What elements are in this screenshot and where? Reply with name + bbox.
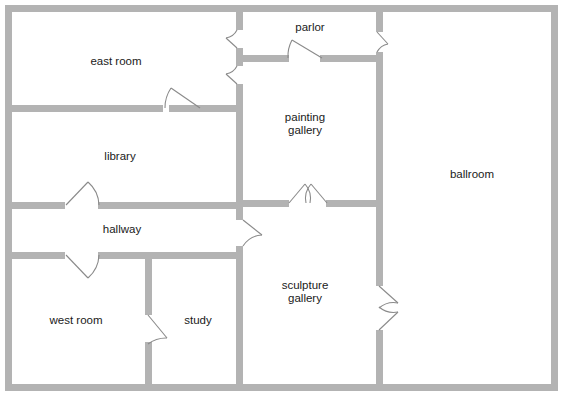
door-library-to-hallway	[66, 182, 99, 205]
wall-east-library-right	[169, 105, 243, 112]
interior-walls	[8, 12, 383, 391]
wall-hallway-west-left	[8, 252, 65, 259]
floor-plan: east room library hallway west room stud…	[0, 0, 570, 403]
door-hallway-to-sculpture-gallery	[243, 220, 262, 246]
wall-east-parlor-upper	[236, 12, 243, 30]
wall-west-study-upper	[145, 255, 152, 315]
room-label-painting-gallery-line1: painting	[285, 111, 325, 123]
wall-library-hallway-left	[8, 202, 65, 209]
wall-gallery-ballroom-lower	[376, 330, 383, 391]
door-parlor-to-painting-gallery	[288, 40, 322, 58]
exterior-wall-left	[5, 5, 12, 391]
wall-galleries-right	[326, 200, 383, 207]
door-east-room-to-painting-gallery	[226, 66, 237, 84]
wall-west-study-lower	[145, 342, 152, 391]
door-parlor-to-ballroom	[377, 32, 388, 52]
wall-parlor-gallery-left	[240, 55, 289, 62]
wall-gallery-ballroom-mid	[376, 52, 383, 286]
wall-parlor-gallery-right	[320, 55, 383, 62]
room-label-west-room: west room	[48, 314, 102, 326]
exterior-wall-right	[551, 5, 558, 391]
room-label-ballroom: ballroom	[450, 168, 494, 180]
wall-galleries-left	[240, 200, 289, 207]
wall-hallway-west-right	[98, 252, 243, 259]
wall-east-library-left	[8, 105, 163, 112]
doors	[66, 30, 398, 344]
room-label-hallway: hallway	[103, 223, 142, 235]
door-hallway-to-west-room	[66, 255, 99, 278]
wall-parlor-ballroom-upper	[376, 12, 383, 32]
room-label-sculpture-gallery-line2: gallery	[288, 292, 322, 304]
door-west-room-to-study	[148, 315, 167, 344]
exterior-wall-bottom	[5, 384, 558, 391]
room-label-study: study	[184, 314, 212, 326]
room-label-painting-gallery-line2: gallery	[288, 124, 322, 136]
door-east-room-to-parlor	[226, 30, 237, 48]
room-label-parlor: parlor	[295, 21, 325, 33]
door-painting-gallery-to-sculpture-gallery	[289, 184, 327, 203]
room-label-east-room: east room	[90, 55, 141, 67]
wall-library-gallery	[236, 108, 243, 205]
exterior-wall-top	[5, 5, 558, 12]
door-sculpture-gallery-to-ballroom	[379, 286, 398, 330]
exterior-walls	[5, 5, 558, 391]
wall-library-hallway-right	[98, 202, 243, 209]
room-labels: east room library hallway west room stud…	[48, 21, 494, 326]
wall-study-sculpture	[236, 255, 243, 391]
room-label-sculpture-gallery-line1: sculpture	[282, 279, 329, 291]
floor-plan-canvas: east room library hallway west room stud…	[0, 0, 570, 403]
wall-east-gallery-lower	[236, 84, 243, 108]
room-label-library: library	[104, 150, 136, 162]
